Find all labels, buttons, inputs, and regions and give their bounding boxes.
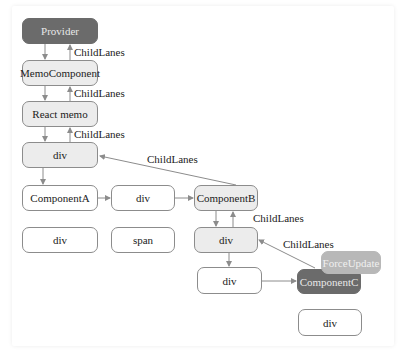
label-childlanes-3: ChildLanes xyxy=(74,128,125,140)
label-childlanes-6: ChildLanes xyxy=(283,238,334,250)
node-component-b: ComponentB xyxy=(194,185,258,211)
label-childlanes-1: ChildLanes xyxy=(74,46,125,58)
node-div-root: div xyxy=(22,142,98,168)
node-div-a-child: div xyxy=(22,227,98,253)
node-component-a: ComponentA xyxy=(22,185,98,211)
node-provider: Provider xyxy=(22,18,98,44)
label-childlanes-2: ChildLanes xyxy=(74,87,125,99)
node-div-mid: div xyxy=(111,185,175,211)
node-div-lower: div xyxy=(197,267,262,294)
label-childlanes-4: ChildLanes xyxy=(147,153,198,165)
node-div-b-child: div xyxy=(194,227,258,253)
node-span: span xyxy=(111,227,175,253)
node-react-memo: React memo xyxy=(22,101,98,127)
edges-layer xyxy=(0,0,406,356)
label-childlanes-5: ChildLanes xyxy=(253,212,304,224)
node-memo-component: MemoComponent xyxy=(22,60,98,86)
node-force-update: ForceUpdate xyxy=(321,251,381,274)
node-div-c-child: div xyxy=(298,309,362,336)
